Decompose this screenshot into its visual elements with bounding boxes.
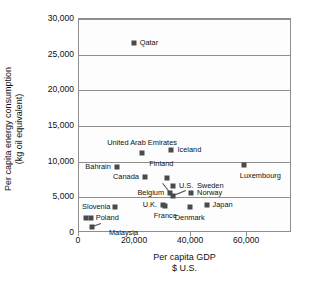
data-point-marker[interactable] xyxy=(114,164,119,169)
data-point-label: United Arab Emirates xyxy=(107,139,177,147)
data-point-marker[interactable] xyxy=(142,174,147,179)
data-point-label: Japan xyxy=(213,201,233,209)
data-point-label: France xyxy=(154,212,177,220)
data-point-label: Denmark xyxy=(175,214,205,222)
y-axis-title-line2: (kg oil equivalent) xyxy=(14,29,25,229)
data-point-label: Slovenia xyxy=(82,203,110,211)
data-point-marker[interactable] xyxy=(169,148,174,153)
data-point-label: Luxembourg xyxy=(240,172,281,180)
data-point-label: U.S. xyxy=(179,182,193,190)
gridline xyxy=(79,126,290,127)
data-point-marker[interactable] xyxy=(131,40,136,45)
data-point-marker[interactable] xyxy=(242,163,247,168)
x-axis-title-line2: $ U.S. xyxy=(78,263,291,274)
gridline xyxy=(79,197,290,198)
data-point-marker[interactable] xyxy=(204,203,209,208)
data-point-marker[interactable] xyxy=(187,205,192,210)
data-point-marker[interactable] xyxy=(163,203,168,208)
label-leader-line xyxy=(174,190,186,196)
data-point-marker[interactable] xyxy=(165,176,170,181)
y-axis-tick-label: 20,000 xyxy=(48,85,74,94)
scatter-chart-figure: 05,00010,00015,00020,00025,00030,000 Qat… xyxy=(0,0,312,288)
data-point-label: Canada xyxy=(113,173,139,181)
y-axis-title-line1: Per capita energy consumption xyxy=(3,29,14,229)
data-point-label: Bahrain xyxy=(85,163,110,171)
data-point-label: Iceland xyxy=(177,146,201,154)
y-axis-tick-label: 5,000 xyxy=(52,192,74,201)
x-axis-tick-label: 40,000 xyxy=(177,236,203,245)
x-axis-tick-label: 60,000 xyxy=(233,236,259,245)
data-point-marker[interactable] xyxy=(140,151,145,156)
data-point-marker[interactable] xyxy=(88,216,93,221)
data-point-label: Qatar xyxy=(140,39,158,47)
data-point-label: Norway xyxy=(197,189,222,197)
y-axis-tick-labels: 05,00010,00015,00020,00025,00030,000 xyxy=(22,0,74,288)
plot-area: QatarUnited Arab EmiratesIcelandBahrainL… xyxy=(78,18,291,232)
x-axis-title-line1: Per capita GDP xyxy=(78,252,291,263)
data-point-marker[interactable] xyxy=(113,205,118,210)
gridline xyxy=(79,90,290,91)
gridline xyxy=(79,19,290,20)
y-axis-tick-label: 10,000 xyxy=(48,156,74,165)
y-axis-tick-label: 15,000 xyxy=(48,121,74,130)
y-axis-tick-label: 30,000 xyxy=(48,14,74,23)
data-point-label: Finland xyxy=(149,160,173,168)
data-point-marker[interactable] xyxy=(170,183,175,188)
y-axis-title: Per capita energy consumption (kg oil eq… xyxy=(3,29,25,229)
data-point-marker[interactable] xyxy=(83,216,88,221)
x-axis-tick-label: 20,000 xyxy=(121,236,147,245)
data-point-marker[interactable] xyxy=(189,191,194,196)
y-axis-tick-label: 0 xyxy=(69,228,74,237)
label-leader-line xyxy=(93,223,101,227)
gridline xyxy=(79,55,290,56)
data-point-label: Belgium xyxy=(137,189,164,197)
x-axis-title: Per capita GDP $ U.S. xyxy=(78,252,291,274)
data-point-label: Poland xyxy=(96,214,119,222)
x-axis-tick-label: 0 xyxy=(76,236,81,245)
y-axis-tick-label: 25,000 xyxy=(48,49,74,58)
data-point-label: U.K. xyxy=(143,201,157,209)
